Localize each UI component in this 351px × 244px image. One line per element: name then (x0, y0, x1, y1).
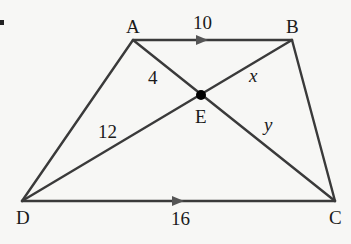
label-segment-ae: 4 (148, 67, 158, 88)
point-e-dot (196, 90, 206, 100)
label-point-e: E (195, 106, 207, 127)
label-vertex-d: D (16, 207, 30, 228)
parallel-arrow-dc-icon (172, 196, 184, 206)
parallel-arrow-ab-icon (196, 35, 208, 45)
label-segment-be: x (248, 65, 258, 86)
label-vertex-c: C (329, 207, 342, 228)
label-segment-dc: 16 (171, 208, 190, 229)
trapezoid-diagram: A B C D E 10 16 4 12 x y (0, 0, 351, 244)
diagonal-ac (133, 40, 335, 201)
side-bc (292, 40, 335, 201)
bullet-mark (0, 20, 4, 25)
label-vertex-b: B (286, 16, 299, 37)
label-segment-ab: 10 (193, 12, 212, 33)
label-segment-ce: y (262, 114, 273, 135)
label-vertex-a: A (126, 16, 140, 37)
label-segment-de: 12 (98, 121, 117, 142)
